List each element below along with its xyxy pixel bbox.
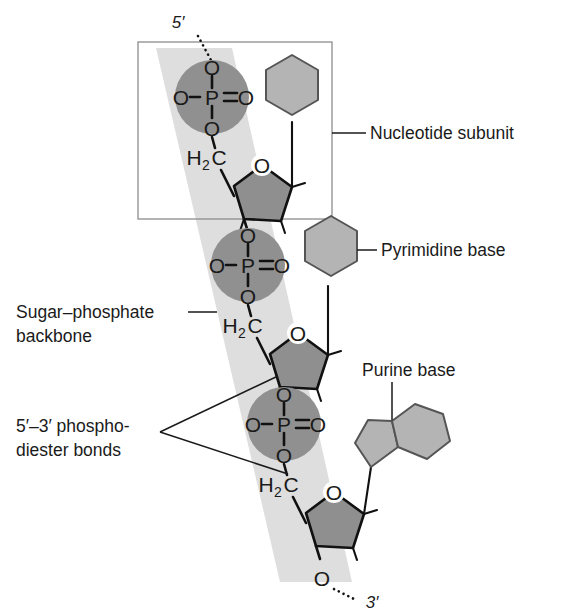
phosphate-o-left-3: O [245, 413, 261, 436]
phosphorus-atom-1: P [205, 86, 219, 109]
three-prime-oxygen: O [314, 567, 330, 590]
purine-base-five-ring [355, 420, 398, 467]
svg-text:2: 2 [202, 157, 210, 173]
svg-text:C: C [283, 473, 298, 496]
phosphorus-atom-2: P [241, 254, 255, 277]
phosphate-o-top-1: O [204, 56, 220, 79]
three-prime-dotted-line [334, 589, 356, 600]
phosphate-o-bottom-3: O [276, 444, 292, 467]
phosphate-o-right-3: O [310, 413, 326, 436]
phosphate-o-top-3: O [276, 383, 292, 406]
callout-nucleotide-subunit: Nucleotide subunit [332, 123, 514, 143]
svg-text:H: H [186, 146, 201, 169]
callout-label-sugar-phosphate-line2: backbone [16, 326, 92, 346]
phosphate-o-right-2: O [274, 254, 290, 277]
svg-text:C: C [247, 314, 262, 337]
sugar-ring-oxygen-2: O [290, 322, 306, 345]
sugar-ring-oxygen-3: O [326, 481, 342, 504]
svg-text:H: H [222, 314, 237, 337]
callout-label-sugar-phosphate-line1: Sugar–phosphate [16, 302, 154, 322]
phosphate-o-top-2: O [240, 224, 256, 247]
dna-backbone-diagram: 5′ O O P O O H 2 C O [0, 0, 561, 612]
phosphate-o-left-2: O [209, 254, 225, 277]
callout-label-nucleotide-subunit: Nucleotide subunit [370, 123, 514, 143]
five-prime-label: 5′ [172, 13, 185, 32]
phosphate-o-bottom-1: O [204, 117, 220, 140]
pyrimidine-base-hexagon-2 [305, 216, 357, 276]
three-prime-label: 3′ [366, 593, 379, 612]
callout-label-pyrimidine-base: Pyrimidine base [381, 240, 506, 260]
callout-label-phosphodiester-line2: diester bonds [16, 440, 121, 460]
svg-text:H: H [258, 473, 273, 496]
pyrimidine-base-hexagon-1 [266, 55, 318, 115]
svg-text:2: 2 [274, 484, 282, 500]
callout-sugar-phosphate-backbone: Sugar–phosphate backbone [16, 302, 217, 346]
callout-pyrimidine-base: Pyrimidine base [357, 240, 506, 260]
callout-label-phosphodiester-line1: 5′–3′ phospho- [16, 416, 130, 436]
svg-text:C: C [211, 146, 226, 169]
phosphate-o-right-1: O [238, 86, 254, 109]
svg-text:2: 2 [238, 325, 246, 341]
phosphate-o-left-1: O [173, 86, 189, 109]
sugar-ring-oxygen-1: O [254, 154, 270, 177]
phosphate-o-bottom-2: O [240, 285, 256, 308]
phosphorus-atom-3: P [277, 413, 291, 436]
purine-base-six-ring [392, 404, 450, 459]
callout-label-purine-base: Purine base [362, 360, 455, 380]
